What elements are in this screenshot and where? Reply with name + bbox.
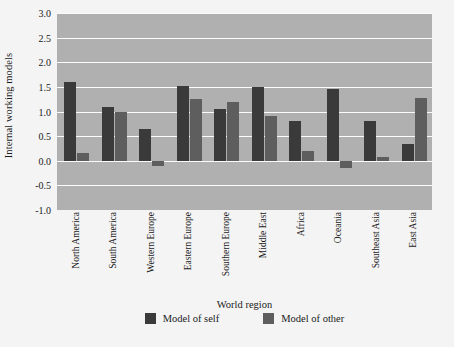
y-axis-tick: 2.5 [39, 32, 52, 43]
bar [152, 161, 164, 166]
bar-group [357, 13, 395, 210]
bar [402, 144, 414, 161]
bar [77, 153, 89, 160]
y-axis-title-text: Internal working models [4, 52, 15, 158]
bar [227, 102, 239, 161]
x-axis-tick-labels: North AmericaSouth AmericaWestern Europe… [57, 212, 432, 300]
bar-group [395, 13, 433, 210]
legend-item[interactable]: Model of self [145, 313, 220, 324]
y-axis-tick-labels: 3.02.52.01.51.00.50.0-0.5-1.0 [18, 13, 54, 210]
bar [115, 112, 127, 161]
bar [139, 129, 151, 161]
y-axis-tick: 3.0 [39, 8, 52, 19]
bar-group [320, 13, 358, 210]
bar-group [245, 13, 283, 210]
y-axis-tick: -0.5 [35, 180, 51, 191]
bar [190, 99, 202, 161]
y-axis-title: Internal working models [0, 0, 18, 210]
bar [340, 161, 352, 168]
bar [415, 98, 427, 161]
bar [252, 87, 264, 161]
bar [265, 116, 277, 160]
y-axis-tick: 2.0 [39, 57, 52, 68]
plot-area [57, 13, 432, 210]
bar [64, 82, 76, 161]
bar-group [207, 13, 245, 210]
bar-group [57, 13, 95, 210]
bar-group [95, 13, 133, 210]
bar [327, 89, 339, 160]
chart-legend: Model of selfModel of other [57, 313, 432, 324]
y-axis-tick: 1.5 [39, 81, 52, 92]
bar [102, 107, 114, 161]
bar [289, 121, 301, 160]
y-axis-tick: 0.5 [39, 131, 52, 142]
bar-chart-figure: Internal working models 3.02.52.01.51.00… [0, 0, 454, 347]
y-axis-tick: 1.0 [39, 106, 52, 117]
bar-group [282, 13, 320, 210]
bar-group [170, 13, 208, 210]
bar-group [132, 13, 170, 210]
bar [214, 109, 226, 161]
y-axis-tick: 0.0 [39, 155, 52, 166]
legend-item[interactable]: Model of other [263, 313, 344, 324]
legend-swatch [145, 313, 156, 324]
bar [377, 157, 389, 160]
x-axis-title: World region [57, 299, 432, 310]
bar [302, 151, 314, 161]
legend-label: Model of self [163, 313, 220, 324]
x-axis-tick: East Asia [369, 212, 454, 300]
bar [177, 86, 189, 161]
x-axis-tick-label: East Asia [408, 212, 418, 248]
legend-label: Model of other [281, 313, 344, 324]
bar [364, 121, 376, 160]
legend-swatch [263, 313, 274, 324]
